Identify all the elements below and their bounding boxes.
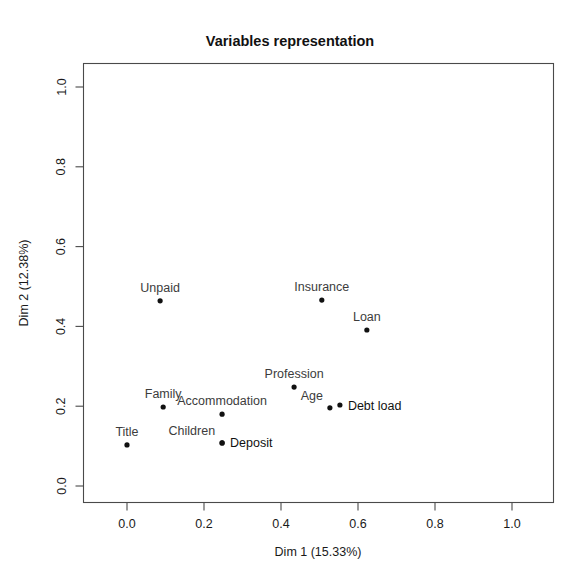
data-point[interactable] [291, 384, 296, 389]
point-label: Age [301, 389, 323, 403]
y-tick-label: 0.6 [55, 238, 69, 255]
x-tick-label: 0.6 [349, 517, 366, 531]
point-label: Insurance [294, 280, 349, 294]
data-point[interactable] [161, 404, 166, 409]
x-tick-label: 1.0 [503, 517, 520, 531]
data-points-layer: UnpaidInsuranceLoanProfessionFamilyAccom… [115, 280, 401, 450]
y-tick-label: 0.0 [55, 477, 69, 494]
data-point[interactable] [219, 440, 224, 445]
point-label: Children [169, 424, 216, 438]
x-tick-label: 0.0 [118, 517, 135, 531]
point-label: Unpaid [140, 281, 180, 295]
page-title: Variables representation [206, 33, 374, 49]
plot-container: Variables representation 0.00.20.40.60.8… [0, 0, 581, 586]
data-point[interactable] [158, 298, 163, 303]
point-label: Accommodation [177, 394, 267, 408]
data-point[interactable] [327, 405, 332, 410]
x-axis-ticks: 0.00.20.40.60.81.0 [118, 503, 520, 531]
point-label: Title [115, 425, 138, 439]
data-point[interactable] [319, 297, 324, 302]
x-tick-label: 0.8 [426, 517, 443, 531]
point-label: Loan [353, 310, 381, 324]
data-point[interactable] [219, 412, 224, 417]
x-tick-label: 0.4 [272, 517, 289, 531]
y-tick-label: 0.8 [55, 158, 69, 175]
data-point[interactable] [337, 402, 342, 407]
data-point[interactable] [364, 327, 369, 332]
x-axis-label: Dim 1 (15.33%) [275, 545, 362, 559]
y-tick-label: 0.2 [55, 397, 69, 414]
point-label: Debt load [348, 399, 402, 413]
x-tick-label: 0.2 [195, 517, 212, 531]
point-label: Profession [265, 367, 324, 381]
y-axis-ticks: 0.00.20.40.60.81.0 [55, 78, 84, 494]
data-point[interactable] [124, 442, 129, 447]
y-tick-label: 1.0 [55, 78, 69, 95]
y-axis-label: Dim 2 (12.38%) [17, 240, 31, 327]
y-tick-label: 0.4 [55, 318, 69, 335]
variables-representation-scatter-plot: Variables representation 0.00.20.40.60.8… [0, 0, 581, 586]
point-label: Deposit [230, 436, 273, 450]
